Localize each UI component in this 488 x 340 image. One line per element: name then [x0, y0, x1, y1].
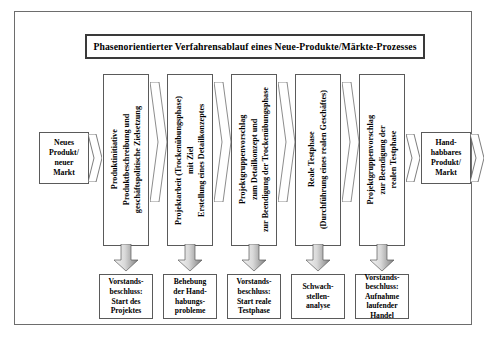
result-3-label: Vorstands- beschluss: Start reale Testph…: [236, 277, 271, 315]
terminal-box-start: Neues Produkt/ neuer Markt: [39, 132, 89, 184]
result-box-4: Schwach- stellen- analyse: [291, 274, 345, 319]
terminal-end-label: Hand- habbares Produkt/ Markt: [431, 138, 462, 179]
chevron-right-icon-entry: [88, 134, 102, 182]
result-box-1: Vorstands- beschluss: Start des Projekte…: [99, 274, 153, 319]
phase-5-label: Projektgruppenvorschlag zur Beendigung d…: [365, 115, 400, 204]
phase-1-label: Produktinitiative Produktbeschreibung un…: [109, 106, 144, 213]
diagram-title-banner: Phasenorientierter Verfahrensablauf eine…: [85, 34, 425, 59]
arrow-down-icon-1: [113, 244, 139, 272]
diagram-frame: Phasenorientierter Verfahrensablauf eine…: [14, 11, 472, 325]
result-5-label: Vorstands- beschluss: Aufnahme laufender…: [364, 273, 399, 321]
chevron-right-icon-2: [214, 82, 231, 202]
phase-3-label: Projektgruppenvorschlag zum Detailkonzep…: [237, 87, 272, 232]
chevron-right-icon-trailing: [470, 134, 484, 182]
terminal-box-end: Hand- habbares Produkt/ Markt: [421, 132, 471, 184]
result-box-2: Behebung der Hand- habungs- probleme: [163, 274, 217, 319]
phase-column-5: Projektgruppenvorschlag zur Beendigung d…: [359, 74, 405, 246]
result-1-label: Vorstands- beschluss: Start des Projekte…: [108, 277, 143, 315]
chevron-right-icon-1: [150, 82, 167, 202]
phase-column-4: Reale Testphase (Durchführung eines real…: [295, 74, 341, 246]
phase-column-1: Produktinitiative Produktbeschreibung un…: [103, 74, 149, 246]
chevron-right-icon-3: [278, 82, 295, 202]
chevron-right-icon-exit: [406, 134, 420, 182]
result-4-label: Schwach- stellen- analyse: [302, 282, 333, 311]
arrow-down-icon-3: [241, 244, 267, 272]
phase-column-2: Projektarbeit (Trockenübungsphase) mit Z…: [167, 74, 213, 246]
page-title: Phasenorientierter Verfahrensablauf eine…: [93, 41, 416, 52]
result-box-5: Vorstands- beschluss: Aufnahme laufender…: [355, 274, 409, 319]
arrow-down-icon-5: [369, 244, 395, 272]
phase-2-label: Projektarbeit (Trockenübungsphase) mit Z…: [173, 96, 208, 225]
terminal-start-label: Neues Produkt/ neuer Markt: [49, 138, 79, 179]
result-2-label: Behebung der Hand- habungs- probleme: [173, 277, 206, 315]
chevron-right-icon-4: [342, 82, 359, 202]
arrow-down-icon-2: [177, 244, 203, 272]
arrow-down-icon-4: [305, 244, 331, 272]
phase-column-3: Projektgruppenvorschlag zum Detailkonzep…: [231, 74, 277, 246]
phase-4-label: Reale Testphase (Durchführung eines real…: [306, 90, 329, 229]
result-box-3: Vorstands- beschluss: Start reale Testph…: [227, 274, 281, 319]
